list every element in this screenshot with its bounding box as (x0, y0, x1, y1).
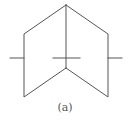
figure-caption: (a) (0, 101, 130, 115)
left-panel-outline (24, 5, 66, 97)
diagram-canvas: (a) (0, 0, 130, 125)
right-panel-outline (66, 5, 108, 97)
